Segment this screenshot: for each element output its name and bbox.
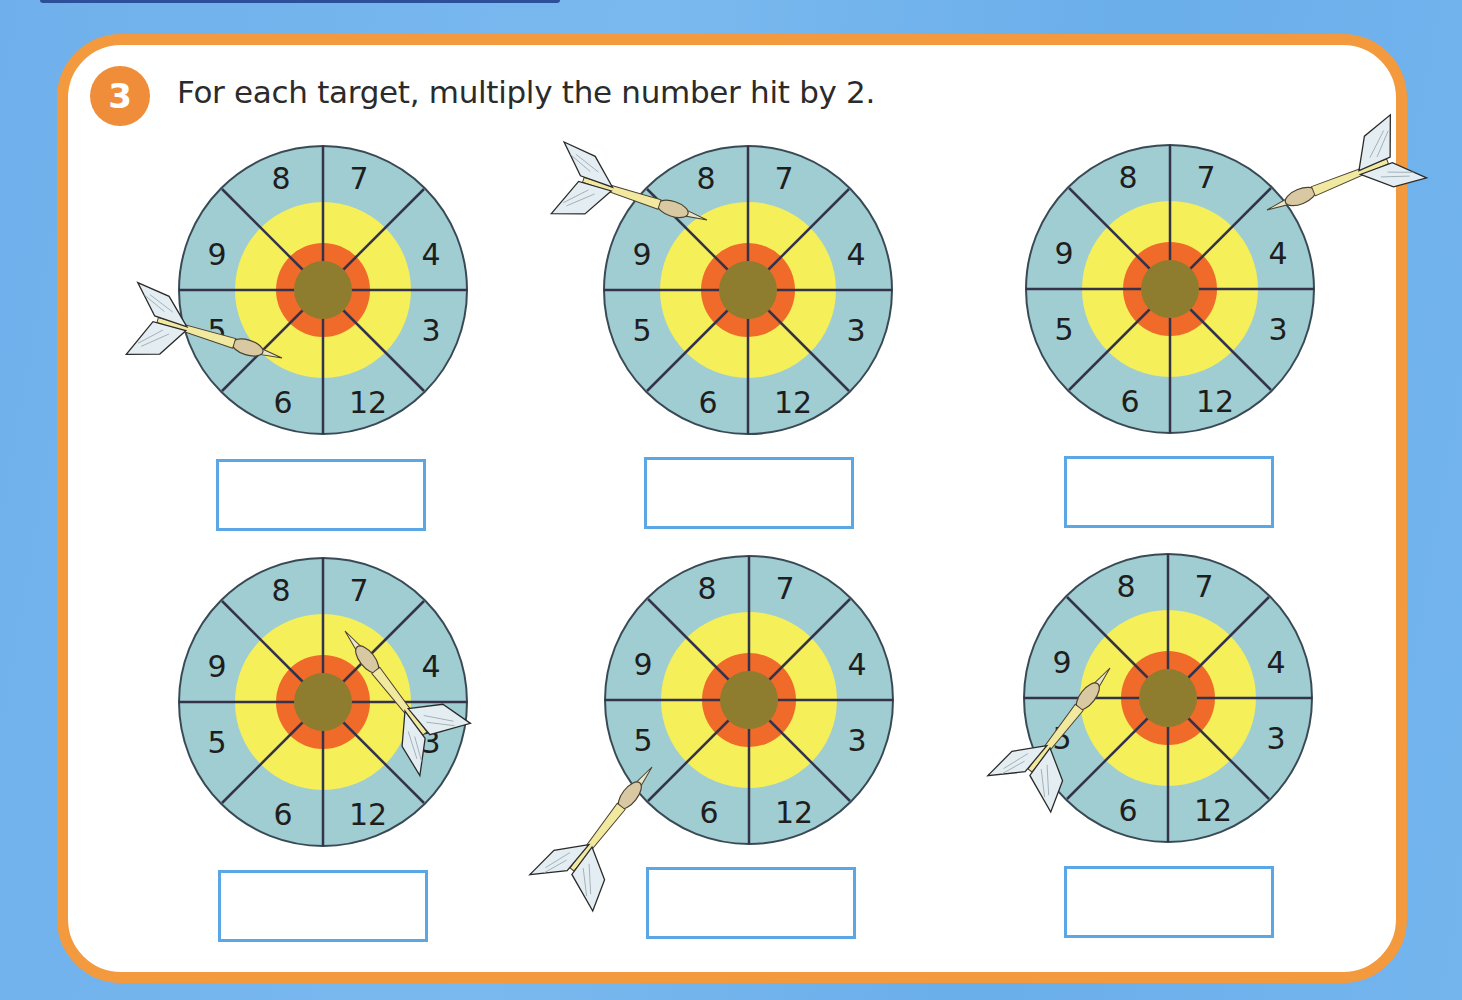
segment-label: 8 (697, 571, 716, 606)
segment-label: 4 (847, 647, 866, 682)
segment-label: 9 (1054, 236, 1073, 271)
segment-label: 6 (273, 797, 292, 832)
target-4: 8 7 4 3 12 6 5 9 (179, 558, 467, 846)
segment-label: 3 (847, 723, 866, 758)
segment-label: 9 (632, 237, 651, 272)
segment-label: 6 (273, 385, 292, 420)
segment-label: 9 (1052, 645, 1071, 680)
segment-label: 5 (207, 725, 226, 760)
target-5: 8 7 4 3 12 6 5 9 (605, 556, 893, 844)
segment-label: 3 (421, 313, 440, 348)
segment-label: 3 (846, 313, 865, 348)
segment-label: 12 (774, 385, 812, 420)
segment-label: 12 (1194, 793, 1232, 828)
segment-label: 8 (271, 573, 290, 608)
segment-label: 4 (1268, 236, 1287, 271)
segment-label: 7 (349, 161, 368, 196)
segment-label: 9 (633, 647, 652, 682)
segment-label: 4 (846, 237, 865, 272)
segment-label: 4 (1266, 645, 1285, 680)
answer-box-6[interactable] (1064, 866, 1274, 938)
answer-box-1[interactable] (216, 459, 426, 531)
segment-label: 6 (699, 795, 718, 830)
target-3: 8 7 4 3 12 6 5 9 (1026, 145, 1314, 433)
target-2: 8 7 4 3 12 6 5 9 (604, 146, 892, 434)
segment-label: 6 (698, 385, 717, 420)
segment-label: 8 (1118, 160, 1137, 195)
segment-label: 12 (775, 795, 813, 830)
segment-label: 7 (1194, 569, 1213, 604)
segment-label: 3 (1266, 721, 1285, 756)
answer-box-5[interactable] (646, 867, 856, 939)
segment-label: 5 (633, 723, 652, 758)
target-1: 8 7 4 3 12 6 5 9 (179, 146, 467, 434)
segment-label: 8 (696, 161, 715, 196)
segment-label: 6 (1118, 793, 1137, 828)
segment-label: 7 (774, 161, 793, 196)
segment-label: 12 (349, 385, 387, 420)
segment-label: 12 (349, 797, 387, 832)
segment-label: 4 (421, 649, 440, 684)
segment-label: 4 (421, 237, 440, 272)
answer-box-3[interactable] (1064, 456, 1274, 528)
segment-label: 12 (1196, 384, 1234, 419)
segment-label: 5 (1054, 312, 1073, 347)
answer-box-2[interactable] (644, 457, 854, 529)
segment-label: 6 (1120, 384, 1139, 419)
segment-label: 5 (632, 313, 651, 348)
segment-label: 8 (271, 161, 290, 196)
segment-label: 8 (1116, 569, 1135, 604)
segment-label: 7 (349, 573, 368, 608)
segment-label: 9 (207, 237, 226, 272)
segment-label: 7 (1196, 160, 1215, 195)
target-6: 8 7 4 3 12 6 5 9 (1024, 554, 1312, 842)
answer-box-4[interactable] (218, 870, 428, 942)
segment-label: 7 (775, 571, 794, 606)
segment-label: 3 (1268, 312, 1287, 347)
segment-label: 9 (207, 649, 226, 684)
